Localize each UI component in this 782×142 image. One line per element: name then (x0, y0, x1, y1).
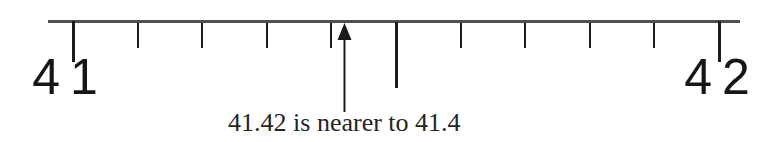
tick-41.1 (137, 23, 139, 48)
tick-41.8 (589, 23, 591, 48)
caption-text: 41.42 is nearer to 41.4 (184, 109, 504, 136)
tick-41.7 (524, 23, 526, 48)
start-value-label: 41 (30, 52, 110, 102)
tick-41.5 (395, 22, 398, 88)
end-value-label: 42 (682, 52, 762, 102)
tick-41.2 (201, 23, 203, 48)
number-line-figure: 41 42 41.42 is nearer to 41.4 (0, 0, 782, 142)
tick-41.9 (653, 23, 655, 48)
pointer-arrow-icon (331, 23, 358, 115)
tick-41.6 (460, 23, 462, 48)
tick-41.3 (266, 23, 268, 48)
